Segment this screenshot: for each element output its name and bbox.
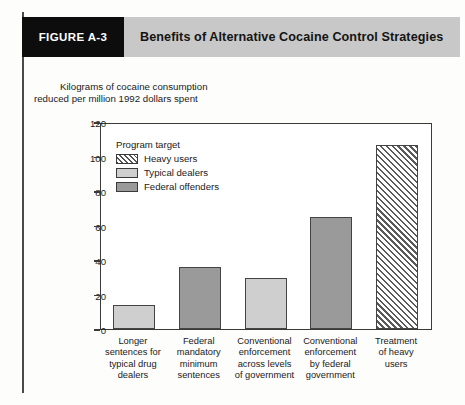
x-axis-label: Federalmandatoryminimumsentences bbox=[162, 336, 236, 382]
legend-item-typical-dealers: Typical dealers bbox=[116, 167, 266, 180]
legend-swatch-light-icon bbox=[116, 168, 138, 178]
legend-label-federal-offenders: Federal offenders bbox=[144, 181, 219, 192]
legend-label-heavy-users: Heavy users bbox=[144, 153, 197, 164]
bar bbox=[113, 305, 155, 329]
bar bbox=[179, 267, 221, 329]
legend-item-federal-offenders: Federal offenders bbox=[116, 181, 266, 194]
bar bbox=[310, 217, 352, 329]
x-axis-label: Treatmentof heavyusers bbox=[359, 336, 433, 370]
legend-label-typical-dealers: Typical dealers bbox=[144, 167, 208, 178]
y-tick-mark bbox=[94, 226, 100, 227]
y-tick-mark bbox=[94, 191, 100, 192]
x-axis-labels: Longersentences fortypical drugdealersFe… bbox=[100, 336, 432, 396]
legend-item-heavy-users: Heavy users bbox=[116, 153, 266, 166]
bar-chart: 020406080100120 Program target Heavy use… bbox=[0, 0, 465, 405]
legend-swatch-hatched-icon bbox=[116, 154, 138, 164]
x-axis-label: Conventionalenforcementby federalgovernm… bbox=[293, 336, 367, 382]
y-tick-mark bbox=[94, 260, 100, 261]
legend-swatch-dark-icon bbox=[116, 182, 138, 192]
y-tick-mark bbox=[94, 329, 100, 330]
x-axis-label: Longersentences fortypical drugdealers bbox=[96, 336, 170, 382]
y-tick-mark bbox=[94, 122, 100, 123]
x-axis-label: Conventionalenforcementacross levelsof g… bbox=[228, 336, 302, 382]
figure-page: FIGURE A-3 Benefits of Alternative Cocai… bbox=[0, 0, 465, 405]
chart-legend: Program target Heavy users Typical deale… bbox=[116, 139, 266, 195]
y-tick-mark bbox=[94, 157, 100, 158]
bar bbox=[376, 145, 418, 330]
y-tick-mark bbox=[94, 295, 100, 296]
legend-title: Program target bbox=[116, 139, 266, 150]
bar bbox=[245, 278, 287, 329]
